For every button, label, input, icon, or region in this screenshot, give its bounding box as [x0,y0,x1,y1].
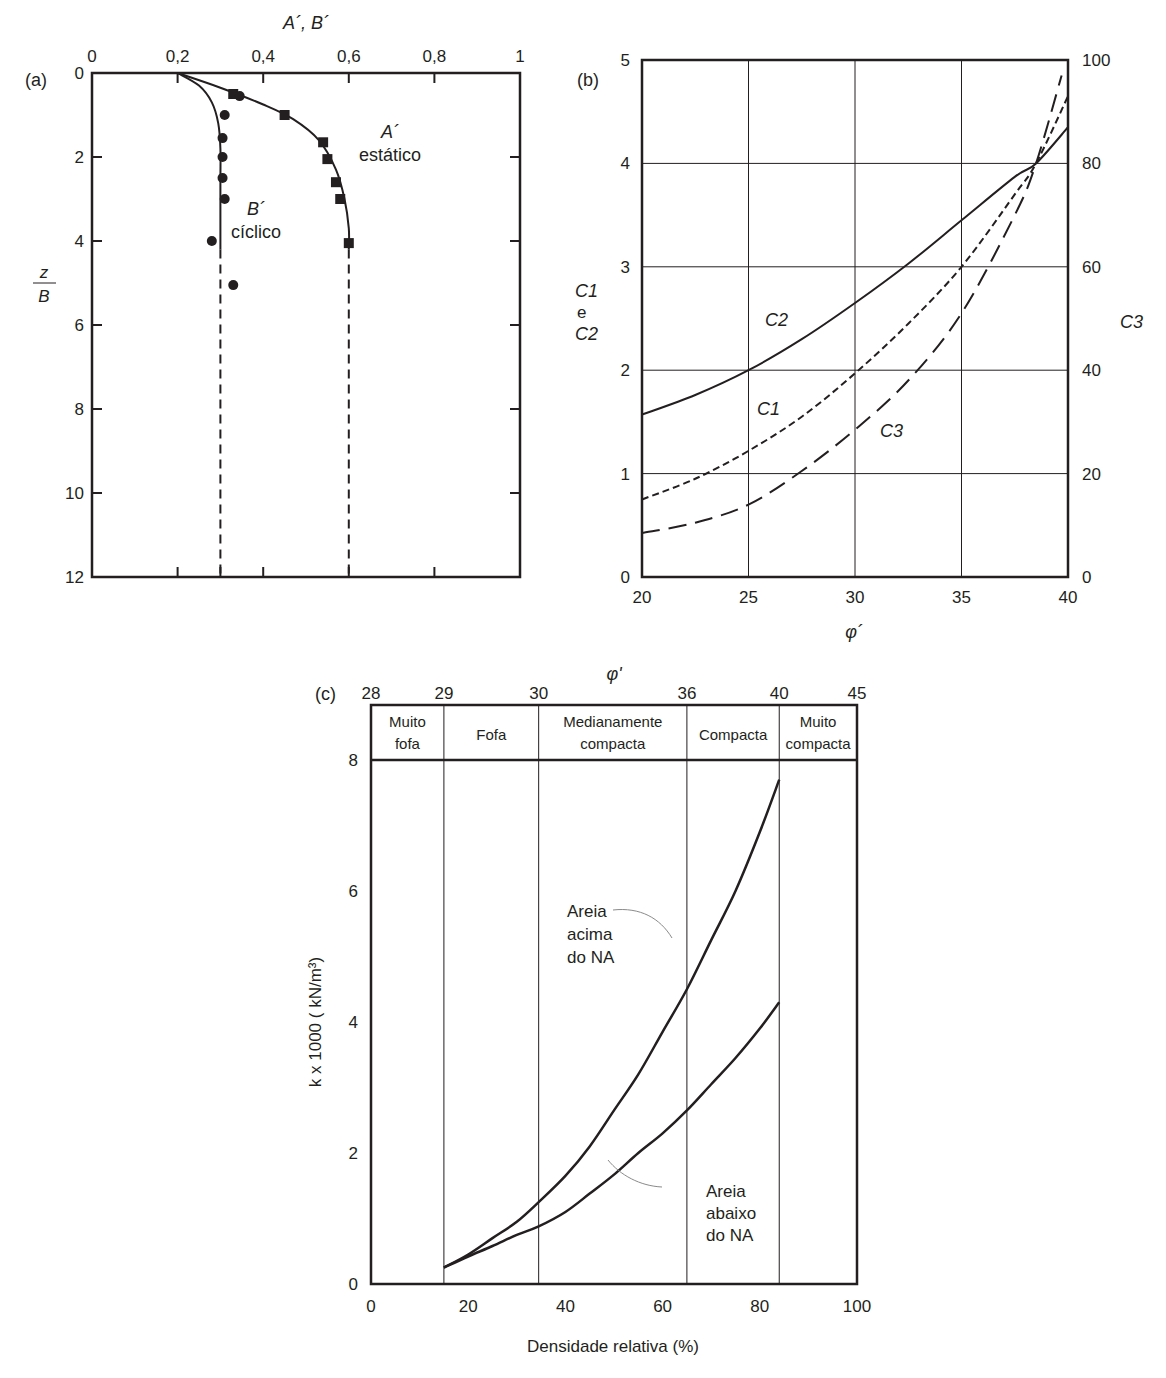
zone-label: Fofa [476,726,507,743]
figure-canvas: 00,20,40,60,81024681012A´, B´(a)zBA´está… [0,0,1166,1378]
y-axis-title-denominator: B [38,287,49,306]
zone-label: Compacta [699,726,768,743]
x-tick-label: 35 [952,588,971,607]
x-tick-label: 20 [459,1297,478,1316]
data-point-square [335,194,345,204]
y-right-tick-label: 60 [1082,258,1101,277]
y-right-tick-label: 40 [1082,361,1101,380]
data-point-square [322,154,332,164]
y-axis-title-numerator: z [39,263,49,282]
series-label-above-line: Areia [567,902,607,921]
x-tick-label: 0 [366,1297,375,1316]
y-left-tick-label: 0 [621,568,630,587]
y-tick-label: 0 [349,1275,358,1294]
y-tick-label: 4 [349,1013,358,1032]
annotation-c3: C3 [880,421,903,441]
y-tick-label: 8 [349,751,358,770]
data-point-circle [220,110,230,120]
top-tick-label: 29 [434,684,453,703]
y-left-tick-label: 4 [621,154,630,173]
series-label-below-line: do NA [706,1226,754,1245]
zone-label-line2: compacta [580,735,646,752]
y-tick-label: 4 [75,232,84,251]
x-tick-label: 100 [843,1297,871,1316]
x-tick-label: 25 [739,588,758,607]
y-tick-label: 0 [75,64,84,83]
x-tick-label: 1 [515,47,524,66]
y-right-tick-label: 0 [1082,568,1091,587]
top-axis-title: φ' [606,664,622,684]
top-tick-label: 36 [677,684,696,703]
data-point-square [344,238,354,248]
data-point-square [280,110,290,120]
data-point-circle [218,173,228,183]
y-left-title-line1: C1 [575,281,598,301]
zone-label-line1: Medianamente [563,713,662,730]
series-label-b-line1: B´ [247,199,265,219]
chart-a-depth-vs-coefficients: 00,20,40,60,81024681012A´, B´(a)zBA´está… [25,13,525,587]
y-right-title: C3 [1120,312,1143,332]
annotation-c2: C2 [765,310,788,330]
y-left-title-line3: C2 [575,324,598,344]
y-tick-label: 2 [75,148,84,167]
data-point-circle [228,280,238,290]
x-tick-label: 60 [653,1297,672,1316]
data-point-circle [218,133,228,143]
x-tick-label: 0,4 [251,47,275,66]
series-label-a-line2: estático [359,145,421,165]
top-tick-label: 45 [848,684,867,703]
x-tick-label: 0,6 [337,47,361,66]
plot-frame [92,73,520,577]
data-point-square [318,137,328,147]
y-left-tick-label: 2 [621,361,630,380]
leader-line-above [613,910,672,938]
zone-label-line2: fofa [395,735,421,752]
y-left-tick-label: 3 [621,258,630,277]
y-right-tick-label: 20 [1082,465,1101,484]
y-tick-label: 10 [65,484,84,503]
series-label-below-line: abaixo [706,1204,756,1223]
data-point-circle [235,91,245,101]
x-tick-label: 40 [1059,588,1078,607]
x-tick-label: 40 [556,1297,575,1316]
panel-label: (c) [315,684,336,704]
series-label-above-line: acima [567,925,613,944]
panel-label: (b) [577,70,599,90]
y-right-tick-label: 100 [1082,51,1110,70]
top-tick-label: 30 [529,684,548,703]
fit-curve [178,73,221,249]
x-axis-title: φ´ [845,622,863,642]
y-left-tick-label: 5 [621,51,630,70]
x-tick-label: 0,8 [423,47,447,66]
chart-c-subgrade-modulus-vs-relative-density: MuitofofaFofaMedianamentecompactaCompact… [306,664,871,1356]
y-right-tick-label: 80 [1082,154,1101,173]
panel-label: (a) [25,70,47,90]
y-tick-label: 6 [349,882,358,901]
data-point-square [331,177,341,187]
x-tick-label: 80 [750,1297,769,1316]
x-tick-label: 30 [846,588,865,607]
data-point-circle [218,152,228,162]
x-axis-title: A´, B´ [282,13,329,33]
y-tick-label: 12 [65,568,84,587]
series-label-a-line1: A´ [380,122,399,142]
series-label-below-line: Areia [706,1182,746,1201]
zone-label-line2: compacta [786,735,852,752]
y-tick-label: 8 [75,400,84,419]
y-tick-label: 2 [349,1144,358,1163]
x-axis-title: Densidade relativa (%) [527,1337,699,1356]
zone-label-line1: Muito [800,713,837,730]
x-tick-label: 0 [87,47,96,66]
x-tick-label: 0,2 [166,47,190,66]
x-tick-label: 20 [633,588,652,607]
data-point-circle [207,236,217,246]
y-tick-label: 6 [75,316,84,335]
chart-b-coefficients-vs-friction-angle: 2025303540001202403604805100(b)φ´C1eC2C3… [575,51,1143,642]
top-tick-label: 40 [770,684,789,703]
data-point-circle [220,194,230,204]
series-label-b-line2: cíclico [231,222,281,242]
y-left-title-line2: e [577,303,586,322]
y-axis-title: k x 1000 ( kN/m³) [306,957,325,1087]
top-tick-label: 28 [362,684,381,703]
y-left-tick-label: 1 [621,465,630,484]
